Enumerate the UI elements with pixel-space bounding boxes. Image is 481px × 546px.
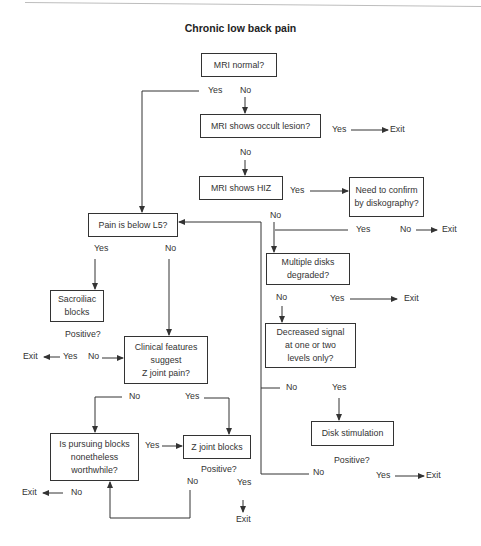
box-hiz: MRI shows HIZ <box>199 176 283 200</box>
label-sacro-no: No <box>88 351 99 361</box>
label-pursuing-exit: Exit <box>22 487 37 497</box>
label-confirm-yes: Yes <box>356 224 370 234</box>
label-hiz-yes: Yes <box>290 185 304 195</box>
label-multi-no: No <box>276 292 287 302</box>
label-disk-no: No <box>313 467 324 477</box>
label-clinical-yes: Yes <box>185 391 199 401</box>
box-occult-lesion: MRI shows occult lesion? <box>200 114 321 138</box>
label-mri-normal-yes: Yes <box>208 85 222 95</box>
label-decreased-yes: Yes <box>332 382 346 392</box>
label-multi-exit: Exit <box>404 293 419 303</box>
box-z-joint-blocks: Z joint blocks <box>183 435 251 459</box>
label-sacro-exit: Exit <box>23 351 38 361</box>
box-decreased-signal: Decreased signal at one or two levels on… <box>265 323 356 368</box>
box-confirm-diskography: Need to confirm by diskography? <box>349 177 424 217</box>
label-occult-yes: Yes <box>332 124 346 134</box>
label-occult-exit: Exit <box>390 124 405 134</box>
label-zjoint-yes: Yes <box>237 477 251 487</box>
box-mri-normal: MRI normal? <box>201 53 277 77</box>
label-zjoint-exit: Exit <box>236 514 251 524</box>
box-disk-stimulation: Disk stimulation <box>311 421 394 446</box>
label-pursuing-no: No <box>71 487 82 497</box>
label-pain-no: No <box>165 243 176 253</box>
label-sacro-yes: Yes <box>63 351 77 361</box>
label-pain-yes: Yes <box>94 243 108 253</box>
label-sacro-positive: Positive? <box>65 329 101 339</box>
box-pain-below-l5: Pain is below L5? <box>88 213 178 237</box>
label-multi-yes: Yes <box>330 293 344 303</box>
box-sacroiliac-blocks: Sacroiliac blocks <box>50 290 104 322</box>
label-clinical-no: No <box>129 391 140 401</box>
box-multiple-disks: Multiple disks degraded? <box>266 253 350 285</box>
label-disk-yes: Yes <box>376 470 390 480</box>
label-confirm-no: No <box>400 224 411 234</box>
label-disk-exit: Exit <box>426 470 441 480</box>
label-pursuing-yes: Yes <box>145 440 159 450</box>
label-decreased-no: No <box>286 382 297 392</box>
label-confirm-exit: Exit <box>442 224 457 234</box>
label-disk-positive: Positive? <box>334 455 370 465</box>
label-zjoint-positive: Positive? <box>201 464 237 474</box>
label-mri-normal-no: No <box>240 85 251 95</box>
label-occult-no: No <box>240 147 251 157</box>
label-hiz-no: No <box>270 210 281 220</box>
box-clinical-features: Clinical features suggest Z joint pain? <box>124 336 208 384</box>
label-zjoint-no: No <box>187 476 198 486</box>
box-pursuing-blocks: Is pursuing blocks nonetheless worthwhil… <box>50 433 139 481</box>
